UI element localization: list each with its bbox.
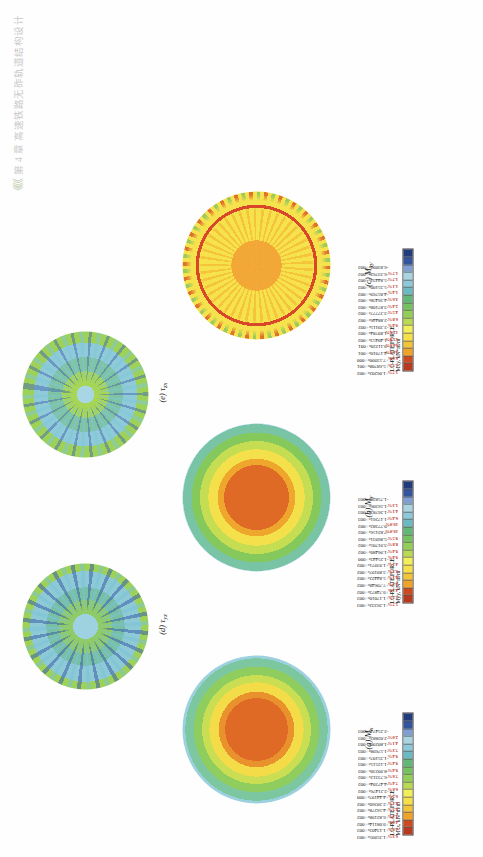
- legend-value: -6.33762e+002: [358, 271, 388, 276]
- legend-percent: 4.1%: [388, 508, 398, 513]
- legend-swatch: [403, 309, 412, 317]
- legend-percent: 3.6%: [388, 296, 398, 301]
- legend-value: -1.75828e+003: [358, 496, 388, 501]
- figure-cell-mxy: (c) Mxy +1.06202e+002+5.68708e+001+7.539…: [176, 169, 426, 379]
- legend-swatch: [403, 735, 412, 743]
- legend-percent: 9.4%: [388, 753, 398, 758]
- legend-value: -1.12515e+003: [358, 761, 388, 766]
- legend-value: -8.99230e+002: [358, 768, 388, 773]
- legend-mxx-values: +1.35995e+003+1.13403e+003+9.08114e+002+…: [344, 723, 388, 835]
- legend-swatch: [403, 256, 412, 264]
- legend-value: +4.56278e+002: [356, 807, 388, 812]
- legend-percent: 4.1%: [388, 800, 398, 805]
- legend-swatch: [403, 482, 412, 489]
- legend-mxy-colorbar: [402, 249, 413, 372]
- legend-swatch: [403, 819, 412, 827]
- legend-mxy: +1.06202e+002+5.68708e+001+7.53990e+000-…: [344, 249, 413, 372]
- legend-percent: 8.8%: [388, 541, 398, 546]
- legend-value: -2.25474e+003: [358, 728, 388, 733]
- legend-value: -6.73312e+002: [358, 774, 388, 779]
- legend-percent: 10.0%: [385, 521, 398, 526]
- legend-value: +9.08114e+002: [357, 821, 388, 826]
- legend-swatch: [403, 317, 412, 325]
- figure-caption-qyz: (d) τyz: [156, 519, 167, 729]
- legend-swatch: [403, 564, 412, 572]
- legend-swatch: [403, 355, 412, 363]
- legend-percent: 9.4%: [388, 322, 398, 327]
- legend-value: -9.11220e+001: [358, 343, 388, 348]
- legend-swatch: [403, 579, 412, 587]
- legend-percent: 4.2%: [388, 581, 398, 586]
- legend-percent: 12.6%: [385, 329, 398, 334]
- legend-value: -2.39115e+002: [358, 324, 388, 329]
- legend-swatch: [403, 773, 412, 781]
- legend-swatch: [403, 496, 412, 504]
- legend-value: -9.77382e+002: [358, 523, 388, 528]
- legend-swatch: [403, 758, 412, 766]
- legend-swatch: [403, 324, 412, 332]
- legend-value: -6.83093e+002: [358, 264, 388, 269]
- contour-disc-mxx-rim: [182, 655, 330, 803]
- legend-value: -1.36783e+003: [358, 509, 388, 514]
- legend-percent: 2.0%: [388, 734, 398, 739]
- legend-value: -1.56306e+003: [358, 503, 388, 508]
- legend-percent: 9.4%: [388, 760, 398, 765]
- legend-value: -1.96480e+002: [358, 549, 388, 554]
- legend-swatch: [403, 788, 412, 796]
- legend-value: -1.89784e+002: [358, 330, 388, 335]
- legend-swatch: [403, 340, 412, 348]
- legend-swatch: [403, 250, 412, 257]
- legend-swatch: [403, 796, 412, 804]
- legend-value: -1.25443e+000: [358, 556, 388, 561]
- legend-value: +5.68708e+001: [356, 363, 388, 368]
- legend-percent: 9.4%: [388, 548, 398, 553]
- legend-percent: 9.4%: [388, 767, 398, 772]
- legend-percent: 1.7%: [388, 362, 398, 367]
- legend-percent: 6.8%: [388, 316, 398, 321]
- legend-percent: 14.6%: [385, 349, 398, 354]
- legend-value: +1.36332e+003: [356, 602, 388, 607]
- legend-value: -5.35100e+002: [358, 284, 388, 289]
- running-head: 《《《第 4 章 高速铁路无砟轨道结构设计: [8, 14, 24, 196]
- legend-swatch: [403, 503, 412, 511]
- legend-swatch: [403, 488, 412, 496]
- legend-percent: 1.7%: [388, 276, 398, 281]
- legend-swatch: [403, 556, 412, 564]
- legend-value: +7.79648e+002: [356, 582, 388, 587]
- legend-swatch: [403, 526, 412, 534]
- legend-swatch: [403, 541, 412, 549]
- legend-value: -3.91705e+002: [358, 542, 388, 547]
- legend-swatch: [403, 587, 412, 595]
- figure-caption-qzx-prefix: (e): [156, 393, 166, 402]
- legend-percent: 6.6%: [388, 355, 398, 360]
- legend-swatch: [403, 264, 412, 272]
- contour-disc-mxy-rim: [182, 191, 330, 339]
- legend-value: -4.47394e+002: [358, 781, 388, 786]
- legend-swatch: [403, 781, 412, 789]
- legend-swatch: [403, 811, 412, 819]
- legend-swatch: [403, 826, 412, 834]
- legend-swatch: [403, 728, 412, 736]
- legend-swatch: [403, 302, 412, 310]
- legend-percent: 4.1%: [388, 587, 398, 592]
- legend-swatch: [403, 750, 412, 758]
- legend-percent: 4.5%: [388, 806, 398, 811]
- legend-swatch: [403, 804, 412, 812]
- legend-percent: 9.5%: [388, 535, 398, 540]
- legend-percent: 14.6%: [385, 342, 398, 347]
- legend-swatch: [403, 332, 412, 340]
- legend-swatch: [403, 766, 412, 774]
- legend-percent: 9.4%: [388, 554, 398, 559]
- legend-value: -3.37777e+002: [358, 310, 388, 315]
- legend-value: +2.30360e+002: [356, 801, 388, 806]
- legend-percent: 6.5%: [388, 793, 398, 798]
- legend-value: -4.17910e+001: [358, 350, 388, 355]
- legend-value: -4.85769e+002: [358, 291, 388, 296]
- legend-value: +5.84422e+002: [356, 575, 388, 580]
- legend-swatch: [403, 720, 412, 728]
- legend-myy-values: +1.36332e+003+1.17010e+003+9.74873e+002+…: [344, 491, 388, 603]
- figure-cell-qyz: (d) τyz +9.57322e+002+8.61483e+002+7.656…: [14, 519, 179, 729]
- contour-disc-qzx-rim: [22, 331, 148, 457]
- legend-value: -1.57698e+003: [358, 748, 388, 753]
- legend-value: -7.82156e+002: [358, 529, 388, 534]
